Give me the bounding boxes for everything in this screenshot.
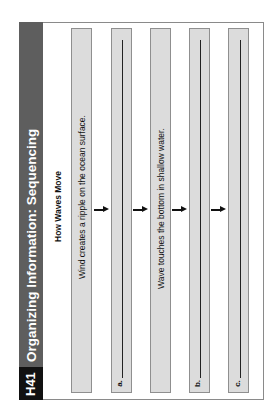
sequence-text-3: Wave touches the bottom in shallow water… bbox=[156, 128, 166, 289]
arrow-icon bbox=[133, 209, 143, 211]
answer-line-a[interactable] bbox=[122, 40, 123, 378]
answer-line-c[interactable] bbox=[240, 40, 241, 378]
label-a: a. bbox=[115, 380, 124, 387]
sequence-box-c[interactable] bbox=[228, 28, 249, 393]
arrow-icon bbox=[211, 209, 221, 211]
organizer-heading: How Waves Move bbox=[53, 171, 63, 242]
arrow-icon bbox=[172, 209, 182, 211]
label-b: b. bbox=[193, 380, 202, 387]
answer-line-b[interactable] bbox=[200, 40, 201, 378]
page-title: Organizing Information: Sequencing bbox=[25, 129, 39, 362]
arrow-icon bbox=[94, 209, 104, 211]
sequence-text-1: Wind creates a ripple on the ocean surfa… bbox=[77, 115, 87, 279]
page-code: H41 bbox=[24, 372, 38, 396]
label-c: c. bbox=[233, 380, 242, 387]
